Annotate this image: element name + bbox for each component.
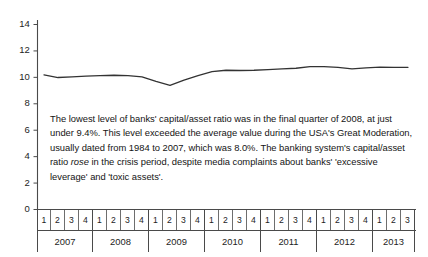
x-tick-quarter-2007-q3: 3 [65, 210, 79, 230]
quarter-label-row: 123412341234123412341234123 [37, 209, 416, 230]
x-tick-quarter-2008-q4: 4 [135, 210, 149, 230]
x-tick-quarter-2012-q3: 3 [345, 210, 359, 230]
x-tick-quarter-2012-q1: 1 [317, 210, 331, 230]
x-axis-year-2009: 2009 [149, 231, 205, 252]
x-axis-year-2011: 2011 [261, 231, 317, 252]
x-tick-quarter-2010-q3: 3 [233, 210, 247, 230]
x-tick-quarter-2010-q2: 2 [219, 210, 233, 230]
chart-figure: 02468101214 The lowest level of banks' c… [0, 0, 428, 257]
x-tick-quarter-2011-q1: 1 [261, 210, 275, 230]
x-tick-quarter-2013-q3: 3 [401, 210, 415, 230]
x-tick-quarter-2008-q3: 3 [121, 210, 135, 230]
x-tick-quarter-2009-q1: 1 [149, 210, 163, 230]
x-tick-quarter-2013-q1: 1 [373, 210, 387, 230]
axis-lines [34, 20, 38, 210]
annotation-emphasis: rose [71, 156, 89, 167]
x-tick-quarter-2010-q4: 4 [247, 210, 261, 230]
x-tick-quarter-2007-q2: 2 [51, 210, 65, 230]
x-tick-quarter-2011-q3: 3 [289, 210, 303, 230]
x-tick-quarter-2008-q2: 2 [107, 210, 121, 230]
x-tick-quarter-2009-q3: 3 [177, 210, 191, 230]
x-tick-quarter-2007-q4: 4 [79, 210, 93, 230]
capital-asset-ratio-line [44, 67, 408, 86]
x-tick-quarter-2013-q2: 2 [387, 210, 401, 230]
x-tick-quarter-2007-q1: 1 [37, 210, 51, 230]
x-axis-year-2008: 2008 [93, 231, 149, 252]
x-tick-quarter-2009-q2: 2 [163, 210, 177, 230]
x-axis-year-2007: 2007 [37, 231, 93, 252]
x-tick-quarter-2012-q4: 4 [359, 210, 373, 230]
x-tick-quarter-2012-q2: 2 [331, 210, 345, 230]
x-tick-quarter-2009-q4: 4 [191, 210, 205, 230]
x-axis-year-2012: 2012 [317, 231, 373, 252]
x-tick-quarter-2011-q4: 4 [303, 210, 317, 230]
x-tick-quarter-2008-q1: 1 [93, 210, 107, 230]
year-label-row: 2007200820092010201120122013 [37, 230, 416, 252]
x-tick-quarter-2010-q1: 1 [205, 210, 219, 230]
x-axis-quarter-year-table: 123412341234123412341234123 200720082009… [37, 209, 416, 253]
annotation-text-block: The lowest level of banks' capital/asset… [50, 112, 416, 184]
annotation-part-2: in the crisis period, despite media comp… [50, 156, 378, 181]
x-tick-quarter-2011-q2: 2 [275, 210, 289, 230]
x-axis-year-2010: 2010 [205, 231, 261, 252]
x-axis-year-2013: 2013 [373, 231, 415, 252]
